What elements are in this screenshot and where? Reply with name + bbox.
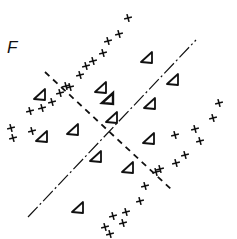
triangle-icon [167,74,178,85]
plus-icon [47,97,57,107]
triangle-icon [141,52,152,63]
plus-icon [25,106,35,116]
plus-icon [75,70,85,80]
plus-icon [170,130,180,140]
plus-icon [190,124,200,134]
plus-icon [180,150,190,160]
triangle-icon [90,151,101,162]
triangle-icon [144,98,155,109]
plus-icon [108,211,118,221]
plus-icon [135,196,145,206]
plus-icon [140,181,150,191]
triangle-icon [95,82,106,93]
plus-icon [27,126,37,136]
plus-icon [123,13,133,23]
plus-icon [37,103,47,113]
plus-icon [103,36,113,46]
plus-markers [6,13,224,239]
plus-icon [8,133,18,143]
center-triangle-icon [102,93,113,104]
triangle-icon [67,124,78,135]
triangle-icon [106,112,117,123]
triangle-icon [122,162,133,173]
triangle-icon [34,89,45,100]
plus-icon [214,98,224,108]
triangle-icon [36,131,47,142]
plus-icon [114,29,124,39]
separating-lines [28,40,196,217]
triangle-markers [34,52,178,213]
triangle-icon [72,202,83,213]
plus-icon [121,207,131,217]
plus-icon [195,136,205,146]
plus-icon [171,158,181,168]
triangle-icon [143,133,154,144]
plus-icon [118,218,128,228]
scatter-diagram [0,0,237,239]
plus-icon [6,123,16,133]
dash-dot-line [28,40,196,217]
center-marker [102,93,113,104]
plus-icon [98,48,108,58]
plus-icon [208,113,218,123]
